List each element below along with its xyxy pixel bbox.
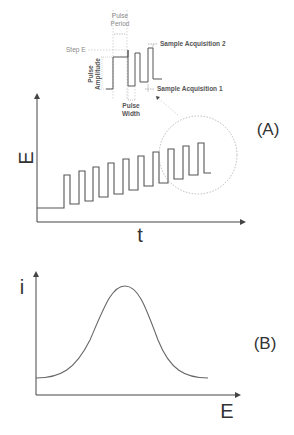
- panel-b: i E (B): [20, 274, 277, 422]
- pulse-width-label-1: Pulse: [122, 102, 140, 109]
- sample-acquisition-1-label: Sample Acquisition 1: [157, 85, 223, 93]
- panel-a-x-label: t: [137, 224, 143, 246]
- panel-a-label: (A): [257, 120, 280, 139]
- sample-acquisition-2-label: Sample Acquisition 2: [160, 40, 226, 48]
- staircase-pulse-waveform: [37, 143, 211, 208]
- step-e-label: Step E: [66, 46, 86, 54]
- pulse-amplitude-label-1: Pulse: [87, 65, 94, 83]
- panel-a: E t (A): [15, 96, 279, 246]
- panel-b-label: (B): [254, 334, 277, 353]
- diagram-canvas: Pulse Period Step E Pulse Amplitude Puls…: [0, 0, 294, 435]
- pulse-width-label-2: Width: [122, 110, 140, 117]
- inset-waveform: [106, 48, 162, 89]
- current-peak-curve: [36, 286, 208, 378]
- panel-b-x-label: E: [220, 400, 233, 422]
- inset-pulse-diagram: Pulse Period Step E Pulse Amplitude Puls…: [66, 10, 226, 117]
- panel-b-y-label: i: [20, 276, 24, 298]
- pulse-amplitude-label-2: Amplitude: [94, 58, 102, 90]
- pulse-period-label-2: Period: [111, 20, 130, 27]
- pulse-period-label-1: Pulse: [112, 12, 129, 19]
- panel-a-y-label: E: [15, 151, 37, 164]
